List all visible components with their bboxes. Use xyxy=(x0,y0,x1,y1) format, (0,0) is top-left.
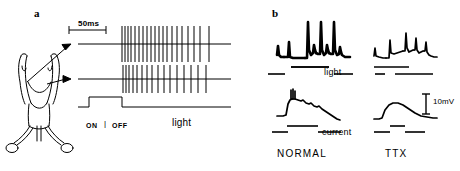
ttx-light-response xyxy=(374,33,437,58)
normal-current-response xyxy=(277,89,340,120)
extracellular-spike-train-upper xyxy=(78,26,231,62)
stimulus-bars-light-row xyxy=(268,67,433,74)
stimulus-off-label: OFF xyxy=(112,122,128,129)
ttx-current-response xyxy=(374,103,437,119)
panel-b-current-row-label: current xyxy=(322,128,351,137)
preparation-diagram xyxy=(6,54,73,153)
panel-b-graphics xyxy=(268,22,437,132)
panel-a-stimulus-name: light xyxy=(172,118,191,128)
stimulus-on-label: ON xyxy=(86,122,98,129)
column-label-normal: NORMAL xyxy=(277,149,327,159)
column-label-ttx: TTX xyxy=(385,149,408,159)
voltage-scale-label: 10mV xyxy=(433,98,454,106)
extracellular-spike-train-lower xyxy=(78,65,231,93)
time-scale-label: 50ms xyxy=(78,20,99,28)
panel-b-light-row-label: light xyxy=(324,68,342,77)
normal-light-response xyxy=(277,22,350,58)
voltage-scale-bar xyxy=(422,94,430,114)
light-stimulus-step xyxy=(78,97,231,107)
panel-a-graphics xyxy=(0,0,460,171)
stimulus-separator: | xyxy=(104,120,106,128)
recording-arrows xyxy=(27,44,71,84)
figure-root: a b xyxy=(0,0,460,171)
